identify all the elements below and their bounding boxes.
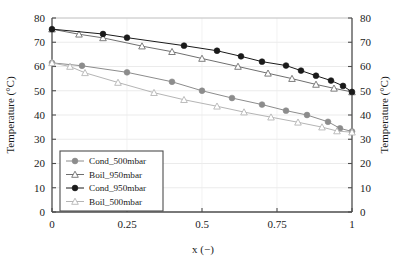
data-point bbox=[328, 78, 334, 84]
data-point bbox=[340, 83, 346, 89]
legend-marker-icon bbox=[72, 185, 78, 191]
chart-figure: 01020304050607080 01020304050607080 00.2… bbox=[0, 0, 396, 260]
x-axis-label: x (−) bbox=[192, 243, 214, 256]
legend-label: Cond_950mbar bbox=[89, 183, 146, 193]
data-point bbox=[238, 53, 244, 59]
y-tick-label-left: 0 bbox=[40, 206, 46, 218]
legend: Cond_500mbarBoil_950mbarCond_950mbarBoil… bbox=[60, 151, 163, 211]
y-tick-label-right: 70 bbox=[360, 36, 372, 48]
data-point bbox=[259, 59, 265, 65]
y-tick-label-left: 50 bbox=[34, 85, 46, 97]
legend-label: Boil_950mbar bbox=[89, 170, 142, 180]
y-tick-label-left: 20 bbox=[34, 157, 46, 169]
data-point bbox=[259, 102, 265, 108]
data-point bbox=[169, 79, 175, 85]
data-point bbox=[283, 108, 289, 114]
data-point bbox=[283, 63, 289, 69]
data-point bbox=[49, 26, 55, 32]
chart-canvas: 01020304050607080 01020304050607080 00.2… bbox=[0, 0, 396, 260]
y-tick-label-right: 30 bbox=[360, 133, 372, 145]
y-tick-label-left: 10 bbox=[34, 182, 46, 194]
data-point bbox=[124, 35, 130, 41]
legend-label: Cond_500mbar bbox=[89, 156, 146, 166]
y-tick-label-left: 30 bbox=[34, 133, 46, 145]
data-point bbox=[214, 48, 220, 54]
data-point bbox=[298, 68, 304, 74]
data-point bbox=[349, 89, 355, 95]
x-tick-label: 1 bbox=[349, 218, 355, 230]
y-tick-label-right: 50 bbox=[360, 85, 372, 97]
y-tick-label-left: 40 bbox=[34, 109, 46, 121]
data-point bbox=[325, 119, 331, 125]
y-tick-label-left: 80 bbox=[34, 12, 46, 24]
data-point bbox=[79, 63, 85, 69]
y-tick-label-right: 40 bbox=[360, 109, 372, 121]
data-point bbox=[181, 43, 187, 49]
y-axis-label-left: Temperature (°C) bbox=[4, 76, 17, 154]
y-tick-label-left: 60 bbox=[34, 60, 46, 72]
legend-label: Boil_500mbar bbox=[89, 197, 142, 207]
x-tick-label: 0.5 bbox=[195, 218, 209, 230]
data-point bbox=[199, 88, 205, 94]
x-tick-label: 0.75 bbox=[267, 218, 287, 230]
data-point bbox=[304, 112, 310, 118]
data-point bbox=[313, 73, 319, 79]
legend-marker-icon bbox=[72, 158, 78, 164]
y-tick-label-right: 20 bbox=[360, 157, 372, 169]
data-point bbox=[100, 31, 106, 37]
y-tick-label-right: 0 bbox=[360, 206, 366, 218]
data-point bbox=[229, 95, 235, 101]
tick-labels-left: 01020304050607080 bbox=[34, 12, 46, 218]
data-point bbox=[82, 70, 89, 76]
y-axis-label-right: Temperature (°C) bbox=[378, 76, 391, 154]
tick-labels-bottom: 00.250.50.751 bbox=[49, 218, 355, 230]
y-tick-label-left: 70 bbox=[34, 36, 46, 48]
y-tick-label-right: 60 bbox=[360, 60, 372, 72]
x-tick-label: 0.25 bbox=[117, 218, 137, 230]
data-point bbox=[124, 69, 130, 75]
x-tick-label: 0 bbox=[49, 218, 55, 230]
y-tick-label-right: 10 bbox=[360, 182, 372, 194]
y-tick-label-right: 80 bbox=[360, 12, 372, 24]
tick-labels-right: 01020304050607080 bbox=[360, 12, 372, 218]
